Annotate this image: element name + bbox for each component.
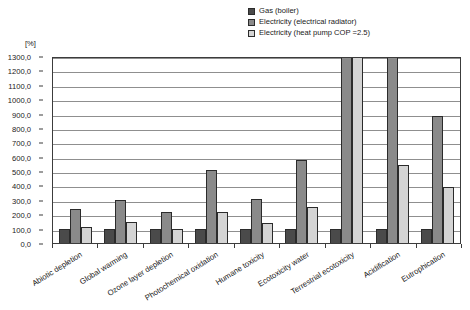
x-axis-labels: Abiotic depletionGlobal warmingOzone lay… xyxy=(0,0,470,310)
x-axis-tick xyxy=(461,244,462,248)
x-axis-tick xyxy=(188,244,189,248)
x-axis-tick xyxy=(370,244,371,248)
x-axis-tick xyxy=(279,244,280,248)
x-axis-category-label: Eutrophication xyxy=(400,250,447,284)
x-axis-tick xyxy=(234,244,235,248)
x-axis-tick xyxy=(97,244,98,248)
x-axis-category-label: Abiotic depletion xyxy=(30,250,83,288)
x-axis-tick xyxy=(143,244,144,248)
x-axis-tick xyxy=(325,244,326,248)
x-axis-tick xyxy=(416,244,417,248)
x-axis-category-label: Acidification xyxy=(362,250,402,280)
x-axis-tick xyxy=(52,244,53,248)
